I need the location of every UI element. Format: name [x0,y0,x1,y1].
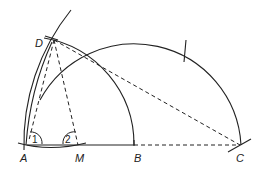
segment-d-m [54,40,78,145]
point-label-d: D [35,37,43,49]
point-label-m: M [75,152,85,164]
diagram-svg: 1 2 D A M B C [0,0,265,177]
point-label-a: A [19,152,27,164]
point-label-c: C [236,152,244,164]
tick-arc [184,40,186,62]
angle-label-1: 1 [32,134,38,145]
segment-d-a [29,40,54,140]
point-label-b: B [134,152,141,164]
arc-center-c [24,10,71,150]
construction-diagram: 1 2 D A M B C [0,0,265,177]
segment-d-c [54,40,240,145]
angle-label-2: 2 [65,134,71,145]
arc-center-b [40,44,241,145]
